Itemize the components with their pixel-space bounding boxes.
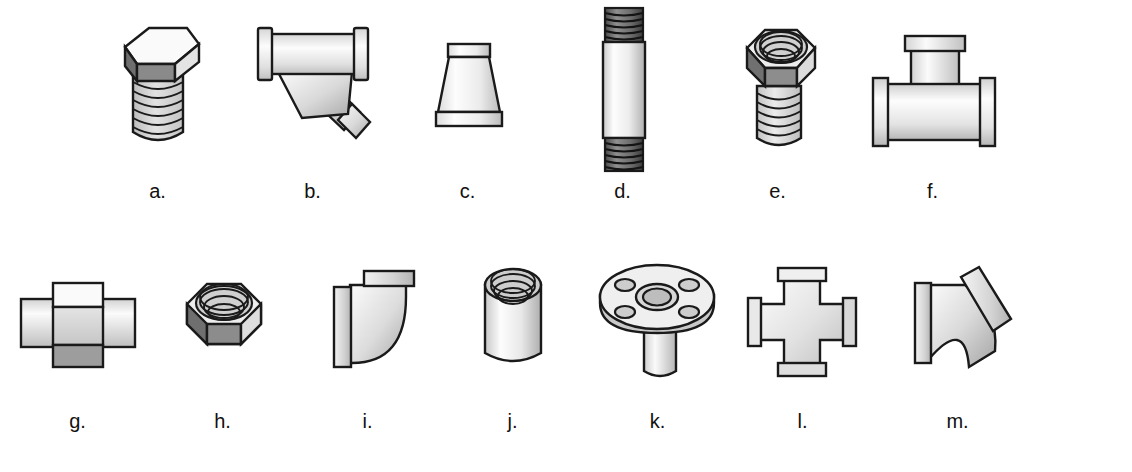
hex-cap-icon: [150, 236, 295, 408]
fittings-figure: a.: [0, 0, 1132, 472]
elbow-90-icon: [295, 236, 440, 408]
fitting-elbow-45: m.: [885, 236, 1030, 472]
fitting-coupling: j.: [440, 236, 585, 472]
fitting-tee: f.: [835, 0, 1030, 236]
fitting-label: k.: [585, 408, 730, 434]
fittings-row-2: g.: [0, 236, 1132, 472]
fitting-label: g.: [5, 408, 150, 434]
coupling-icon: [440, 236, 585, 408]
fittings-row-1: a.: [0, 0, 1132, 236]
union-icon: [5, 236, 150, 408]
fitting-label: m.: [885, 408, 1030, 434]
elbow-45-icon: [885, 236, 1030, 408]
fitting-flange: k.: [585, 236, 730, 472]
fitting-label: h.: [150, 408, 295, 434]
fitting-elbow-90: i.: [295, 236, 440, 472]
fitting-hex-cap: h.: [150, 236, 295, 472]
fitting-label: f.: [835, 178, 1030, 204]
tee-icon: [835, 0, 1030, 178]
fitting-cross: l.: [730, 236, 875, 472]
fitting-label: j.: [440, 408, 585, 434]
fitting-label: i.: [295, 408, 440, 434]
fitting-label: l.: [730, 408, 875, 434]
flange-icon: [585, 236, 730, 408]
fitting-union: g.: [5, 236, 150, 472]
cross-icon: [730, 236, 875, 408]
